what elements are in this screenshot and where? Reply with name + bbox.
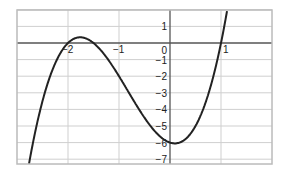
y-tick-label: −6 <box>156 138 168 149</box>
function-graph: −2−1110−1−2−3−4−5−6−7 <box>0 0 284 184</box>
y-tick-label: −5 <box>156 121 168 132</box>
axes <box>17 10 272 164</box>
x-tick-label: 1 <box>223 44 229 55</box>
y-tick-label: −3 <box>156 88 168 99</box>
grid-lines <box>17 10 272 164</box>
function-curve <box>29 11 227 164</box>
y-tick-label: 1 <box>161 21 167 32</box>
y-tick-label: −4 <box>156 104 168 115</box>
x-tick-label: −1 <box>113 44 125 55</box>
plot-border <box>17 10 272 164</box>
y-tick-label: −2 <box>156 71 168 82</box>
y-tick-label: −1 <box>156 55 168 66</box>
